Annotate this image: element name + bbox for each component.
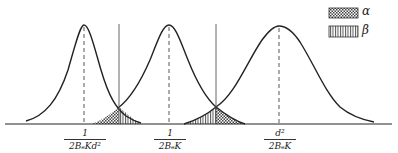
legend-alpha-label: α — [362, 4, 370, 18]
label-curve-3: d² 2BₑK — [264, 128, 296, 151]
label-curve-2: 1 2BₑK — [154, 128, 186, 151]
distribution-diagram — [0, 0, 398, 153]
label-curve-3-denominator: 2BₑK — [264, 140, 296, 151]
curve-1 — [26, 25, 141, 123]
label-curve-2-denominator: 2BₑK — [154, 140, 186, 151]
beta-region-2 — [184, 107, 216, 124]
legend-beta-label: β — [362, 23, 369, 37]
legend-beta-swatch — [329, 26, 358, 37]
curve-2 — [118, 25, 245, 124]
label-curve-2-numerator: 1 — [154, 128, 186, 140]
label-curve-1: 1 2BₑKd² — [64, 128, 106, 151]
label-curve-1-denominator: 2BₑKd² — [64, 140, 106, 151]
legend-alpha-swatch — [329, 8, 358, 18]
label-curve-3-numerator: d² — [264, 128, 296, 140]
curve-3 — [184, 26, 374, 124]
label-curve-1-numerator: 1 — [64, 128, 106, 140]
alpha-region-1 — [92, 107, 119, 124]
